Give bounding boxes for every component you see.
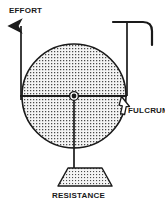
resistance-label: RESISTANCE <box>52 191 105 200</box>
axle-hub-center <box>72 94 77 99</box>
wheel-group <box>20 44 127 168</box>
bracket-hook-path <box>113 22 152 45</box>
resistance-weight <box>58 168 112 186</box>
wheel-and-axle-diagram: EFFORT FULCRUM RESISTANCE <box>0 0 165 204</box>
effort-label: EFFORT <box>9 6 42 15</box>
diagram-canvas: EFFORT FULCRUM RESISTANCE <box>0 0 165 204</box>
weight-trapezoid <box>58 168 112 186</box>
fulcrum-label: FULCRUM <box>128 106 165 115</box>
